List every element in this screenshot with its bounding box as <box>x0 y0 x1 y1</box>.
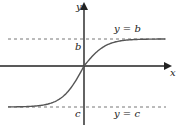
sigmoid-curve <box>8 39 165 107</box>
upper-asymptote-label: y = b <box>113 23 141 34</box>
lower-value-label: c <box>75 108 81 119</box>
x-axis-label: x <box>170 67 176 78</box>
lower-asymptote-label: y = c <box>113 108 140 119</box>
y-axis-label: y <box>75 1 82 12</box>
upper-value-label: b <box>75 41 81 52</box>
sigmoid-diagram: y x y = b b c y = c <box>0 0 177 127</box>
